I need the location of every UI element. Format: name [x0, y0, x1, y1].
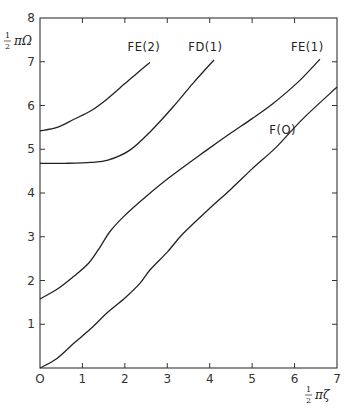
y-tick-label: 2 [27, 274, 35, 288]
x-tick-label: 4 [206, 372, 214, 386]
y-tick-label: 5 [27, 142, 35, 156]
axis-ticks: O123456712345678 [27, 11, 340, 386]
x-tick-label: 3 [163, 372, 171, 386]
y-tick-label: 8 [27, 11, 35, 25]
plot-frame [40, 18, 337, 368]
x-tick-label: 5 [248, 372, 256, 386]
y-title-denominator: 2 [5, 42, 10, 51]
x-axis-title: 1 2 πζ [305, 385, 331, 405]
y-title-symbol: πΩ [13, 34, 32, 48]
x-tick-label: 2 [121, 372, 129, 386]
curve-label: F(O) [269, 123, 296, 137]
x-tick-label: 6 [291, 372, 299, 386]
y-tick-label: 7 [27, 55, 35, 69]
curve-fd1 [40, 60, 214, 163]
chart: O123456712345678 FE(2)FD(1)FE(1)F(O) 1 2… [0, 0, 350, 410]
y-tick-label: 4 [27, 186, 35, 200]
x-tick-label: 7 [333, 372, 341, 386]
curve-fe1 [40, 59, 320, 299]
y-title-numerator: 1 [5, 31, 10, 40]
curve-label: FD(1) [188, 40, 222, 54]
curve-labels: FE(2)FD(1)FE(1)F(O) [128, 40, 324, 137]
y-tick-label: 1 [27, 317, 35, 331]
x-title-denominator: 2 [306, 396, 311, 405]
curve-label: FE(2) [128, 40, 161, 54]
y-tick-label: 3 [27, 230, 35, 244]
x-title-numerator: 1 [306, 385, 311, 394]
y-tick-label: 6 [27, 99, 35, 113]
curves [40, 59, 337, 368]
curve-fe2 [40, 63, 150, 131]
x-tick-label: 1 [79, 372, 87, 386]
x-tick-label: O [35, 372, 44, 386]
x-title-symbol: πζ [314, 388, 331, 402]
y-axis-title: 1 2 πΩ [4, 31, 32, 51]
curve-label: FE(1) [291, 40, 324, 54]
